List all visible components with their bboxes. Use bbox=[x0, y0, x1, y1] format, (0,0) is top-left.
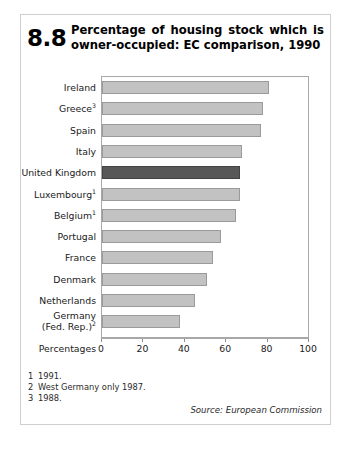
bar bbox=[102, 81, 269, 94]
bar-row: France bbox=[21, 247, 309, 268]
figure-title-block: 8.8 Percentage of housing stock which is… bbox=[21, 15, 330, 59]
bar-row: Denmark bbox=[21, 269, 309, 290]
x-axis-tick-label: 20 bbox=[127, 343, 157, 354]
figure-title: Percentage of housing stock which is own… bbox=[71, 19, 324, 52]
footnotes: 11991.2West Germany only 1987.31988. bbox=[28, 371, 308, 404]
bar bbox=[102, 102, 263, 115]
bar-category-label: Denmark bbox=[0, 269, 96, 290]
x-axis-tick-label: 100 bbox=[293, 343, 323, 354]
bar-chart: IrelandGreece3SpainItalyUnited KingdomLu… bbox=[21, 59, 332, 359]
bar-row: Italy bbox=[21, 141, 309, 162]
bar bbox=[102, 209, 236, 222]
bar-category-label: France bbox=[0, 247, 96, 268]
x-axis-tick-label: 80 bbox=[252, 343, 282, 354]
bar bbox=[102, 145, 242, 158]
bar-row: United Kingdom bbox=[21, 162, 309, 183]
bar-category-label: Portugal bbox=[0, 226, 96, 247]
x-axis-line bbox=[101, 338, 309, 339]
bar bbox=[102, 251, 213, 264]
bar-category-label: Netherlands bbox=[0, 290, 96, 311]
bar-row: Luxembourg1 bbox=[21, 184, 309, 205]
bar-row: Portugal bbox=[21, 226, 309, 247]
figure-number: 8.8 bbox=[27, 19, 71, 50]
footnote-text: West Germany only 1987. bbox=[38, 382, 146, 392]
bar-row: Spain bbox=[21, 120, 309, 141]
figure-title-line-1: Percentage of housing stock which is bbox=[71, 23, 324, 38]
bar-category-label: Belgium1 bbox=[0, 205, 96, 226]
bar bbox=[102, 294, 195, 307]
footnote-number: 3 bbox=[28, 393, 38, 404]
x-axis-title: Percentages bbox=[21, 343, 96, 354]
bar-category-label: Ireland bbox=[0, 77, 96, 98]
figure-title-line-2: owner-occupied: EC comparison, 1990 bbox=[71, 38, 324, 53]
bar-row: Ireland bbox=[21, 77, 309, 98]
bar bbox=[102, 230, 221, 243]
bar-category-label: Spain bbox=[0, 120, 96, 141]
x-axis: 020406080100 bbox=[101, 338, 309, 339]
bar-category-label: Italy bbox=[0, 141, 96, 162]
footnote-text: 1991. bbox=[38, 371, 62, 381]
footnote-number: 2 bbox=[28, 382, 38, 393]
bar bbox=[102, 188, 240, 201]
bar-category-label: Luxembourg1 bbox=[0, 184, 96, 205]
bar-row: Germany(Fed. Rep.)2 bbox=[21, 311, 309, 332]
x-axis-tick-label: 40 bbox=[169, 343, 199, 354]
footnote-number: 1 bbox=[28, 371, 38, 382]
bar bbox=[102, 273, 207, 286]
bar bbox=[102, 315, 180, 328]
footnote-item: 11991. bbox=[28, 371, 308, 382]
bar-row: Greece3 bbox=[21, 98, 309, 119]
x-axis-tick-label: 60 bbox=[210, 343, 240, 354]
bar-category-label: Greece3 bbox=[0, 98, 96, 119]
bar-row: Belgium1 bbox=[21, 205, 309, 226]
bar-row: Netherlands bbox=[21, 290, 309, 311]
bar-category-label: Germany(Fed. Rep.)2 bbox=[0, 311, 96, 332]
bar bbox=[102, 124, 261, 137]
footnote-item: 2West Germany only 1987. bbox=[28, 382, 308, 393]
figure-panel: 8.8 Percentage of housing stock which is… bbox=[20, 14, 331, 425]
bar-highlight bbox=[102, 166, 240, 179]
source-note: Source: European Commission bbox=[190, 405, 322, 415]
footnote-text: 1988. bbox=[38, 393, 62, 403]
bar-category-label: United Kingdom bbox=[0, 162, 96, 183]
footnote-item: 31988. bbox=[28, 393, 308, 404]
